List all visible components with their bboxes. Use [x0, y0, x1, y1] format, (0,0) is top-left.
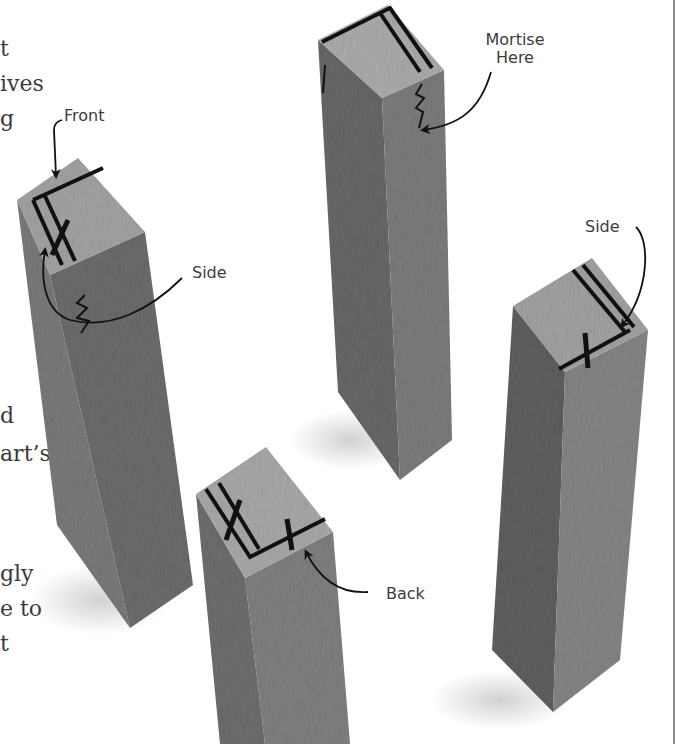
label-side-left: Side: [192, 264, 227, 282]
label-mortise-line1: Mortise: [480, 31, 550, 49]
leg-side-right: [492, 258, 648, 712]
label-mortise-here: Mortise Here: [480, 31, 550, 68]
leg-front-left: [17, 158, 193, 628]
label-front: Front: [64, 107, 104, 125]
leg-back: [196, 447, 350, 744]
label-mortise-line2: Here: [480, 49, 550, 67]
label-side-right: Side: [585, 218, 620, 236]
arrow-front: [54, 120, 62, 176]
label-back: Back: [386, 585, 425, 603]
document-page: t ives g d art’s gly e to t: [0, 0, 675, 744]
leg-mortise: [318, 5, 452, 480]
